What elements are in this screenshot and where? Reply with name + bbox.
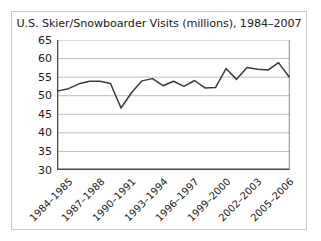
y-tick-label: 60 [22, 53, 52, 64]
y-tick-label: 30 [22, 165, 52, 176]
y-tick-label: 40 [22, 127, 52, 138]
chart-title: U.S. Skier/Snowboarder Visits (millions)… [11, 17, 307, 30]
plot-area [57, 40, 290, 170]
y-gridlines [57, 40, 290, 170]
y-tick-label: 55 [22, 72, 52, 83]
y-tick-label: 45 [22, 109, 52, 120]
y-tick-label: 65 [22, 35, 52, 46]
line-chart-svg [57, 40, 290, 170]
y-tick-label: 50 [22, 90, 52, 101]
data-series-line [58, 63, 289, 108]
chart-figure: U.S. Skier/Snowboarder Visits (millions)… [0, 0, 321, 241]
y-tick-label: 35 [22, 146, 52, 157]
y-axis-tick-labels: 3035404550556065 [22, 40, 52, 170]
x-axis-tick-labels: 1984–19851987–19881990–19911993–19941996… [57, 170, 290, 232]
